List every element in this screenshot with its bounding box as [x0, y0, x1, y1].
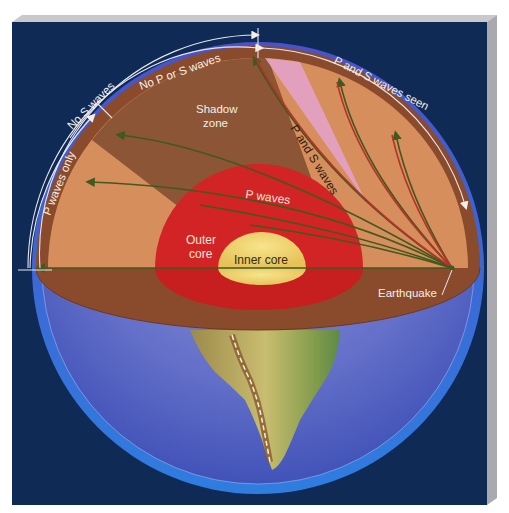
label-shadow-zone-2: zone — [203, 117, 228, 129]
label-outer-core-2: core — [189, 247, 213, 261]
label-earthquake: Earthquake — [378, 287, 437, 299]
label-shadow-zone-1: Shadow — [196, 103, 238, 115]
label-outer-core-1: Outer — [186, 233, 216, 247]
seismic-diagram: P and S waves seen No P or S waves No S … — [0, 0, 509, 513]
diagram-canvas: P and S waves seen No P or S waves No S … — [0, 0, 509, 513]
earthquake-focus — [450, 266, 455, 271]
label-inner-core: Inner core — [234, 253, 288, 267]
